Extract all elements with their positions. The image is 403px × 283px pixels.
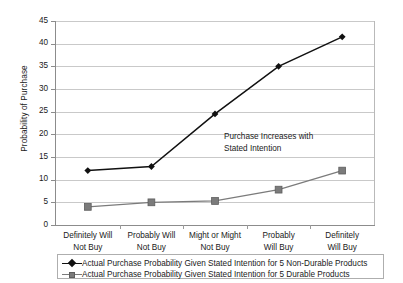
data-point-marker [148, 199, 155, 206]
y-axis-tick-label: 5 [26, 197, 48, 206]
x-axis-tick-mark [310, 225, 311, 229]
x-axis-tick-mark [247, 225, 248, 229]
series-layer [56, 21, 374, 225]
y-axis-tick-mark [51, 21, 55, 22]
legend-square-marker-icon [62, 270, 82, 279]
y-axis-tick-label: 15 [26, 152, 48, 161]
legend-diamond-marker-icon [62, 259, 82, 268]
data-point-marker [339, 33, 346, 40]
data-point-marker [84, 203, 91, 210]
legend-entry-durable: Actual Purchase Probability Given Stated… [62, 269, 379, 280]
y-axis-tick-mark [51, 66, 55, 67]
x-axis-tick-mark [183, 225, 184, 229]
chart-annotation: Purchase Increases with Stated Intention [224, 131, 313, 155]
x-axis-line [55, 225, 375, 226]
data-point-marker [84, 167, 91, 174]
y-axis-tick-label: 20 [26, 129, 48, 138]
data-point-marker [212, 198, 219, 205]
legend-entry-non-durable: Actual Purchase Probability Given Stated… [62, 258, 379, 269]
y-axis-tick-mark [51, 225, 55, 226]
y-axis-tick-mark [51, 112, 55, 113]
y-axis-tick-label: 35 [26, 61, 48, 70]
x-axis-tick-label-line: Will Buy [299, 242, 385, 254]
y-axis-tick-mark [51, 89, 55, 90]
y-axis-tick-label: 0 [26, 220, 48, 229]
annotation-line-2: Stated Intention [224, 143, 313, 155]
y-axis-tick-mark [51, 180, 55, 181]
y-axis-tick-mark [51, 44, 55, 45]
x-axis-tick-mark [120, 225, 121, 229]
y-axis-tick-label: 10 [26, 174, 48, 183]
y-axis-tick-mark [51, 157, 55, 158]
x-axis-tick-label-line: Definitely [299, 230, 385, 242]
y-axis-tick-label: 30 [26, 84, 48, 93]
chart-figure: Probability of Purchase 0510152025303540… [0, 0, 403, 283]
annotation-line-1: Purchase Increases with [224, 131, 313, 143]
y-axis-tick-label: 25 [26, 106, 48, 115]
x-axis-tick-label: DefinitelyWill Buy [299, 230, 385, 253]
legend-label-durable: Actual Purchase Probability Given Stated… [82, 270, 350, 279]
y-axis-tick-label: 45 [26, 16, 48, 25]
y-axis-tick-mark [51, 202, 55, 203]
y-axis-tick-mark [51, 134, 55, 135]
y-axis-tick-label: 40 [26, 38, 48, 47]
plot-right-border [374, 21, 375, 226]
data-point-marker [339, 167, 346, 174]
data-point-marker [275, 186, 282, 193]
chart-legend: Actual Purchase Probability Given Stated… [57, 254, 384, 279]
legend-label-non-durable: Actual Purchase Probability Given Stated… [82, 259, 367, 268]
plot-area [56, 21, 374, 225]
